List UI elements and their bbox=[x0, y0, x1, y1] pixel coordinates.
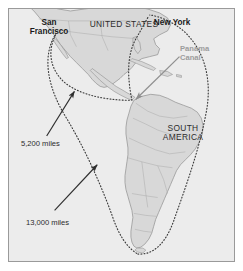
arrow-5200-miles bbox=[47, 91, 75, 136]
map-figure: San Francisco UNITED STATES New York Pan… bbox=[8, 8, 235, 262]
arrow-13000-miles bbox=[55, 165, 98, 211]
south-america-landmass bbox=[125, 94, 203, 248]
map-graphic bbox=[9, 9, 234, 261]
landmass-group bbox=[27, 9, 203, 253]
tierra-del-fuego bbox=[135, 248, 146, 253]
puerto-rico-island bbox=[177, 74, 182, 77]
